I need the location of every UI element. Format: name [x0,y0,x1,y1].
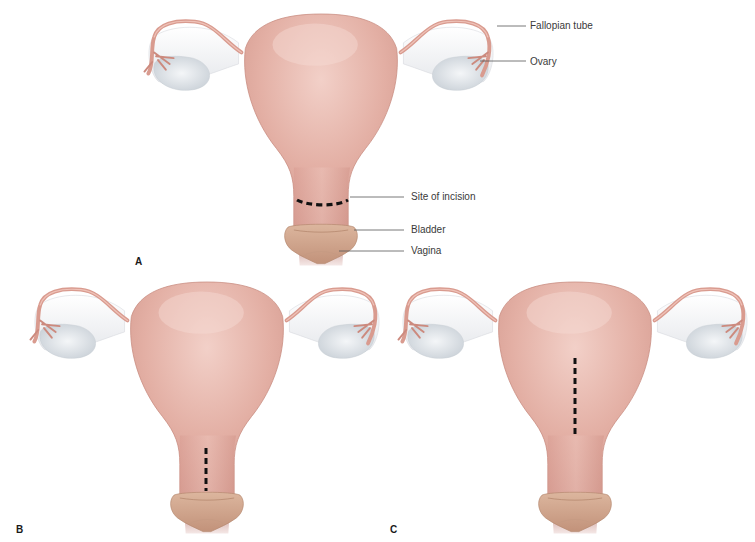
label-ovary: Ovary [530,56,557,68]
panel-c-uterus [398,282,747,534]
label-site-of-incision: Site of incision [411,191,475,203]
label-fallopian-tube: Fallopian tube [530,20,593,32]
panel-letter-a: A [135,256,142,268]
panel-b-uterus [30,282,379,534]
panel-letter-c: C [390,524,397,536]
anatomy-illustration [0,0,755,542]
figure-stage: Fallopian tube Ovary Site of incision Bl… [0,0,755,542]
label-bladder: Bladder [411,224,445,236]
label-vagina: Vagina [411,245,441,257]
panel-letter-b: B [16,524,23,536]
